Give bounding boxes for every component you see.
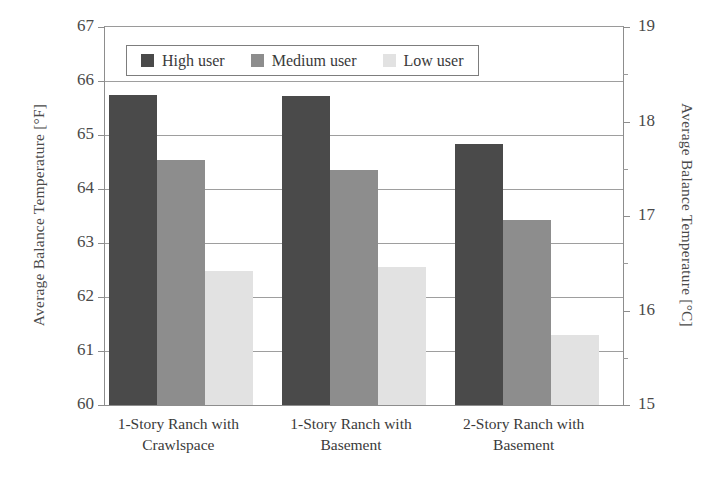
category-label-line: 2-Story Ranch with xyxy=(437,414,610,435)
legend-label: Low user xyxy=(404,52,464,70)
y-tick-label-left: 67 xyxy=(48,16,94,36)
y-tick-right xyxy=(623,122,630,123)
bar xyxy=(551,335,599,405)
x-axis-category-label: 1-Story Ranch withBasement xyxy=(265,414,438,456)
legend-swatch-icon xyxy=(141,54,154,67)
bar xyxy=(503,220,551,405)
bar xyxy=(282,96,330,405)
category-label-line: Crawlspace xyxy=(92,435,265,456)
legend-swatch-icon xyxy=(383,54,396,67)
bar xyxy=(330,170,378,405)
legend-item: High user xyxy=(141,52,225,70)
y-tick-left xyxy=(98,189,105,190)
y-tick-label-right: 16 xyxy=(638,300,678,320)
bar xyxy=(378,267,426,405)
y-tick-label-left: 64 xyxy=(48,178,94,198)
chart-figure: Average Balance Temperature [°F] Average… xyxy=(0,0,726,499)
bar xyxy=(205,271,253,405)
x-axis-category-label: 1-Story Ranch withCrawlspace xyxy=(92,414,265,456)
legend-label: High user xyxy=(162,52,225,70)
y-tick-right-minor xyxy=(623,358,628,359)
x-axis-category-label: 2-Story Ranch withBasement xyxy=(437,414,610,456)
y-tick-label-left: 62 xyxy=(48,286,94,306)
y-tick-right-minor xyxy=(623,169,628,170)
y-tick-label-right: 19 xyxy=(638,16,678,36)
y-tick-label-left: 60 xyxy=(48,394,94,414)
y-tick-right xyxy=(623,311,630,312)
y-tick-label-right: 18 xyxy=(638,111,678,131)
y-tick-right-minor xyxy=(623,74,628,75)
legend-item: Medium user xyxy=(251,52,357,70)
y-tick-left xyxy=(98,81,105,82)
y-tick-left xyxy=(98,297,105,298)
y-tick-right xyxy=(623,27,630,28)
y-tick-label-left: 66 xyxy=(48,70,94,90)
category-label-line: 1-Story Ranch with xyxy=(265,414,438,435)
gridline xyxy=(105,81,623,82)
y-tick-left xyxy=(98,243,105,244)
y-tick-right xyxy=(623,405,630,406)
y-tick-right-minor xyxy=(623,263,628,264)
y-tick-left xyxy=(98,405,105,406)
y-tick-label-left: 65 xyxy=(48,124,94,144)
category-label-line: 1-Story Ranch with xyxy=(92,414,265,435)
category-label-line: Basement xyxy=(437,435,610,456)
bar xyxy=(157,160,205,405)
legend-swatch-icon xyxy=(251,54,264,67)
y-tick-left xyxy=(98,27,105,28)
chart-legend: High userMedium userLow user xyxy=(126,45,479,76)
y-tick-label-left: 63 xyxy=(48,232,94,252)
gridline xyxy=(105,135,623,136)
y-tick-label-right: 15 xyxy=(638,394,678,414)
y-tick-right xyxy=(623,216,630,217)
category-label-line: Basement xyxy=(265,435,438,456)
y-tick-label-left: 61 xyxy=(48,340,94,360)
y-tick-left xyxy=(98,351,105,352)
bar xyxy=(109,95,157,406)
plot-area xyxy=(104,26,624,406)
legend-item: Low user xyxy=(383,52,464,70)
y-tick-left xyxy=(98,135,105,136)
bar xyxy=(455,144,503,405)
legend-label: Medium user xyxy=(272,52,357,70)
y-tick-label-right: 17 xyxy=(638,205,678,225)
